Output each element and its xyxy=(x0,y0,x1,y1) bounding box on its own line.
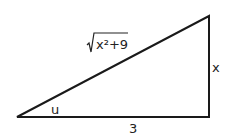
triangle xyxy=(17,16,209,117)
opposite-label: x xyxy=(212,60,220,75)
angle-label: u xyxy=(51,102,59,117)
hypotenuse-label: x²+9 xyxy=(96,37,128,52)
right-triangle-diagram: x²+9 x 3 u xyxy=(0,0,232,139)
adjacent-label: 3 xyxy=(129,121,137,136)
